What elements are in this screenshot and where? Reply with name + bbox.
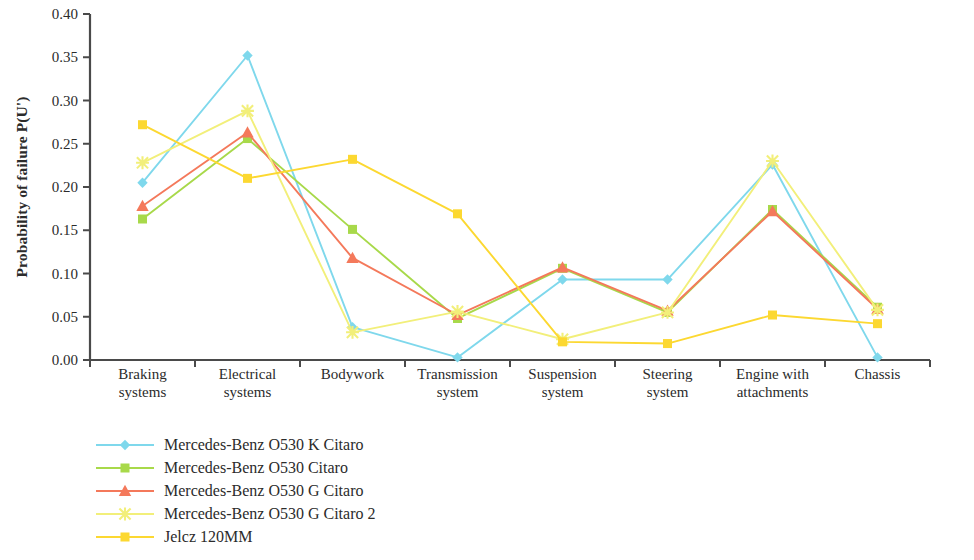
data-point-marker <box>768 311 777 320</box>
legend-marker-icon <box>114 457 136 479</box>
legend-swatch <box>96 527 154 547</box>
data-point-marker <box>663 339 672 348</box>
series-4 <box>138 120 882 348</box>
data-point-marker <box>120 439 130 449</box>
data-point-marker <box>119 508 132 521</box>
x-axis-tick-label: Electricalsystems <box>219 366 276 401</box>
legend-swatch <box>96 504 154 524</box>
legend-label: Mercedes-Benz O530 K Citaro <box>164 437 364 453</box>
chart-legend: Mercedes-Benz O530 K CitaroMercedes-Benz… <box>96 433 376 549</box>
legend-item[interactable]: Mercedes-Benz O530 G Citaro <box>96 479 376 502</box>
legend-marker-icon <box>114 434 136 456</box>
legend-item[interactable]: Mercedes-Benz O530 G Citaro 2 <box>96 503 376 526</box>
series-line <box>143 133 878 316</box>
legend-label: Jelcz 120MM <box>164 529 252 545</box>
x-axis-tick-labels: BrakingsystemsElectricalsystemsBodyworkT… <box>90 366 930 412</box>
data-point-marker <box>661 306 674 319</box>
data-point-marker <box>243 174 252 183</box>
x-axis-tick-label: Engine withattachments <box>736 366 809 401</box>
legend-label: Mercedes-Benz O530 G Citaro 2 <box>164 506 376 522</box>
legend-item[interactable]: Mercedes-Benz O530 Citaro <box>96 456 376 479</box>
data-point-marker <box>138 215 147 224</box>
data-point-marker <box>871 303 884 316</box>
x-axis-tick-label: Bodywork <box>321 366 384 384</box>
legend-marker-icon <box>114 480 136 502</box>
legend-label: Mercedes-Benz O530 Citaro <box>164 460 348 476</box>
data-point-marker <box>453 209 462 218</box>
data-point-marker <box>136 156 149 169</box>
series-line <box>143 125 878 344</box>
data-point-marker <box>451 305 464 318</box>
data-point-marker <box>136 200 148 211</box>
series-line <box>143 111 878 339</box>
legend-swatch <box>96 458 154 478</box>
data-point-marker <box>241 126 253 137</box>
data-point-marker <box>766 155 779 168</box>
series-line <box>143 56 878 358</box>
data-point-marker <box>348 225 357 234</box>
data-point-marker <box>138 120 147 129</box>
legend-item[interactable]: Mercedes-Benz O530 K Citaro <box>96 433 376 456</box>
x-axis-tick-label: Suspensionsystem <box>528 366 596 401</box>
data-point-marker <box>121 533 130 542</box>
data-point-marker <box>558 337 567 346</box>
x-axis-tick-label: Transmissionsystem <box>417 366 497 401</box>
legend-marker-icon <box>114 526 136 548</box>
x-axis-tick-label: Steeringsystem <box>643 366 693 401</box>
failure-probability-line-chart: Probability of failure P(U') 0.000.050.1… <box>0 0 974 560</box>
legend-item[interactable]: Jelcz 120MM <box>96 526 376 549</box>
x-axis-tick-label: Chassis <box>855 366 901 384</box>
data-point-marker <box>121 463 130 472</box>
legend-swatch <box>96 435 154 455</box>
legend-swatch <box>96 481 154 501</box>
legend-label: Mercedes-Benz O530 G Citaro <box>164 483 364 499</box>
data-point-marker <box>873 319 882 328</box>
data-point-marker <box>241 104 254 117</box>
data-point-marker <box>119 485 131 496</box>
data-point-marker <box>346 326 359 339</box>
legend-marker-icon <box>114 503 136 525</box>
data-point-marker <box>348 155 357 164</box>
x-axis-tick-label: Brakingsystems <box>118 366 166 401</box>
